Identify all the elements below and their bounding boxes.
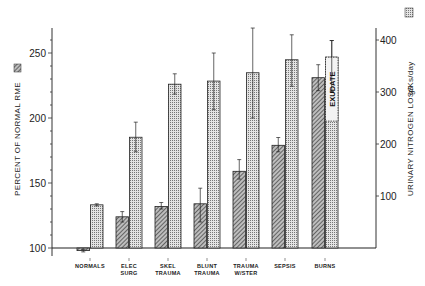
- category-label: NORMALS: [75, 263, 105, 269]
- right-axis-unit: g/Ks/day: [406, 61, 415, 95]
- exudate-label: EXUDATE: [328, 71, 337, 106]
- rme-bar: [155, 206, 168, 248]
- category-label: BURNS: [314, 263, 335, 269]
- category-label: TRAUMA: [155, 270, 181, 276]
- right-tick-label: 200: [380, 139, 397, 150]
- category-label: BLUNT: [197, 263, 217, 269]
- unl-bar: [286, 60, 299, 248]
- right-tick-label: 100: [380, 191, 397, 202]
- category-label: TRAUMA: [194, 270, 220, 276]
- unl-bar: [169, 84, 182, 248]
- right-tick-label: 400: [380, 35, 397, 46]
- left-legend-swatch: [14, 64, 21, 72]
- left-tick-label: 100: [29, 243, 46, 254]
- category-label: SKEL: [160, 263, 176, 269]
- category-label: ELEC: [121, 263, 137, 269]
- category-label: TRAUMA: [233, 263, 259, 269]
- left-tick-label: 150: [29, 178, 46, 189]
- rme-bar: [272, 145, 285, 248]
- right-legend-swatch: [405, 8, 413, 17]
- left-axis-label: PERCENT OF NORMAL RME: [13, 82, 22, 196]
- bars: NORMALSELECSURGSKELTRAUMABLUNTTRAUMATRAU…: [75, 28, 338, 276]
- right-axis-label: URINARY NITROGEN LOSS: [406, 86, 415, 196]
- left-tick-label: 250: [29, 48, 46, 59]
- category-label: W/STER: [234, 270, 257, 276]
- rme-bar: [233, 171, 246, 248]
- unl-bar: [130, 137, 143, 248]
- category-label: SURG: [120, 270, 137, 276]
- right-tick-label: 300: [380, 87, 397, 98]
- rme-bar: [312, 78, 325, 248]
- chart: 100150200250100200300400 NORMALSELECSURG…: [0, 0, 425, 286]
- category-label: SEPSIS: [274, 263, 296, 269]
- unl-bar: [91, 205, 104, 248]
- left-tick-label: 200: [29, 113, 46, 124]
